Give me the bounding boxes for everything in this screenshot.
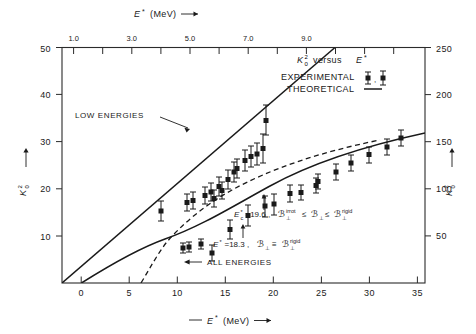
data-point <box>186 242 192 252</box>
annotation-rigid-energy-j1: ℬ <box>257 239 264 249</box>
annotation-critical-energy-irrot: irrot <box>286 208 296 214</box>
legend-title-e: E <box>356 55 363 65</box>
top-axis-ticks: 1.0 3.0 5.0 7.0 9.0 <box>68 34 393 54</box>
bottom-axis-title-star: * <box>215 314 218 321</box>
bottom-axis-title: E * (MeV) <box>189 314 271 326</box>
annotation-critical-energy-value: =19.6 , <box>246 210 271 219</box>
annotation-rigid-energy-equiv: ≡ <box>272 240 277 249</box>
data-point <box>225 170 231 189</box>
bottom-tick-label-20: 20 <box>268 288 279 298</box>
left-tick-label-50: 50 <box>40 44 51 54</box>
annotation-critical-energy-le1: ≤ <box>302 210 307 219</box>
right-axis-title-arrowhead <box>449 148 454 153</box>
right-tick-label-150: 150 <box>436 137 452 147</box>
data-point <box>216 177 222 196</box>
top-axis-title-star: * <box>142 8 145 15</box>
bottom-axis-ticks: 0 5 10 15 20 25 30 35 <box>78 277 422 299</box>
annotation-critical-energy-perp3: ⊥ <box>342 215 347 221</box>
annotation-critical-energy-j2: ℬ <box>311 209 318 219</box>
top-tick-label-1: 1.0 <box>68 34 78 43</box>
left-axis-title-arrowhead <box>23 148 28 153</box>
left-tick-label-40: 40 <box>40 90 51 100</box>
annotation-critical-energy: E * c =19.6 , ℬ ⊥ irrot ≤ ℬ ⊥ ≤ ℬ ⊥ rigi… <box>234 194 352 221</box>
annotation-rigid-energy-star: * <box>219 239 222 245</box>
annotation-critical-energy-rigid: rigid <box>342 208 352 214</box>
data-point <box>333 164 339 180</box>
data-point <box>184 194 190 211</box>
left-tick-label-30: 30 <box>40 137 51 147</box>
data-point <box>298 185 304 200</box>
data-point <box>227 220 233 239</box>
annotation-all-energies-arrowhead <box>184 259 190 264</box>
annotation-rigid-energy-value: =18.3 , <box>225 240 250 249</box>
legend-title: K 0 2 versus E * <box>297 54 367 67</box>
left-axis-ticks: 10 20 30 40 50 <box>40 44 62 242</box>
data-point <box>287 185 293 202</box>
bottom-tick-label-30: 30 <box>364 288 375 298</box>
annotation-rigid-energy-j2: ℬ <box>282 239 289 249</box>
bottom-axis-title-text: E <box>207 316 214 326</box>
bottom-tick-label-35: 35 <box>412 288 423 298</box>
top-tick-label-3: 3.0 <box>127 34 137 43</box>
data-point <box>231 162 237 182</box>
legend-title-k: K <box>297 55 304 65</box>
data-point <box>242 150 248 171</box>
top-tick-label-9: 9.0 <box>301 34 311 43</box>
bottom-tick-label-5: 5 <box>126 288 131 298</box>
data-point <box>348 155 354 171</box>
annotation-all-energies: ALL ENERGIES <box>184 258 272 267</box>
data-point <box>248 146 254 167</box>
annotation-low-energies-text: LOW ENERGIES <box>75 111 144 120</box>
bottom-axis-title-units: (MeV) <box>223 316 250 326</box>
data-point <box>180 243 186 253</box>
data-point <box>254 143 260 165</box>
legend-title-versus: versus <box>313 55 342 65</box>
top-axis-title-arrowhead <box>194 11 199 16</box>
data-point <box>202 187 208 204</box>
left-tick-label-20: 20 <box>40 184 51 194</box>
data-point <box>398 130 404 146</box>
annotation-critical-energy-perp1: ⊥ <box>286 215 291 221</box>
legend: K 0 2 versus E * EXPERIMENTAL , THEORETI… <box>281 54 386 95</box>
annotation-critical-energy-le2: ≤ <box>325 210 330 219</box>
annotation-critical-energy-perp2: ⊥ <box>319 215 324 221</box>
annotation-rigid-energy-perp2: ⊥ <box>290 245 295 251</box>
legend-label-experimental: EXPERIMENTAL <box>281 72 355 82</box>
annotation-rigid-energy-arrowhead <box>241 224 246 228</box>
top-axis-title-text: E <box>134 9 141 19</box>
bottom-tick-label-25: 25 <box>316 288 327 298</box>
right-axis-title: K 0 2 <box>443 148 456 196</box>
legend-title-sub: 0 <box>305 61 309 67</box>
left-axis-title: K 0 2 <box>17 148 30 196</box>
left-tick-label-10: 10 <box>40 232 51 242</box>
data-point <box>158 201 164 221</box>
data-point <box>190 192 196 209</box>
top-tick-label-7: 7.0 <box>243 34 253 43</box>
data-point <box>260 134 266 163</box>
data-point <box>366 147 372 163</box>
right-axis-title-symbol: K <box>444 189 454 196</box>
top-axis-title-units: (MeV) <box>150 9 177 19</box>
annotation-critical-energy-sub: c <box>240 215 243 221</box>
left-axis-title-superscript: 2 <box>17 185 23 189</box>
annotation-rigid-energy: E * =18.3 , ℬ ⊥ ≡ ℬ ⊥ rigid <box>213 224 300 251</box>
annotation-all-energies-text: ALL ENERGIES <box>207 258 272 267</box>
bottom-tick-label-10: 10 <box>172 288 183 298</box>
bottom-tick-label-0: 0 <box>78 288 83 298</box>
top-tick-label-5: 5.0 <box>185 34 195 43</box>
left-axis-title-symbol: K <box>18 189 28 196</box>
annotation-critical-energy-j1: ℬ <box>278 209 285 219</box>
annotation-low-energies-arrowhead <box>184 128 190 133</box>
figure-container: E * (MeV) 1.0 3.0 5.0 7.0 9.0 10 <box>0 0 476 334</box>
legend-marker-comma: , <box>374 75 377 84</box>
annotation-rigid-energy-perp1: ⊥ <box>265 245 270 251</box>
annotation-rigid-energy-e: E <box>213 240 219 249</box>
bottom-axis-title-arrowhead <box>267 318 272 323</box>
left-axis-title-subscript: 0 <box>24 185 30 189</box>
annotation-rigid-energy-rigid: rigid <box>290 238 300 244</box>
data-point <box>198 239 204 249</box>
annotation-critical-energy-e: E <box>234 210 240 219</box>
annotation-low-energies-leader <box>160 117 188 128</box>
top-axis-title: E * (MeV) <box>134 8 198 20</box>
kzero-squared-versus-excitation-energy-chart: E * (MeV) 1.0 3.0 5.0 7.0 9.0 10 <box>0 0 476 334</box>
